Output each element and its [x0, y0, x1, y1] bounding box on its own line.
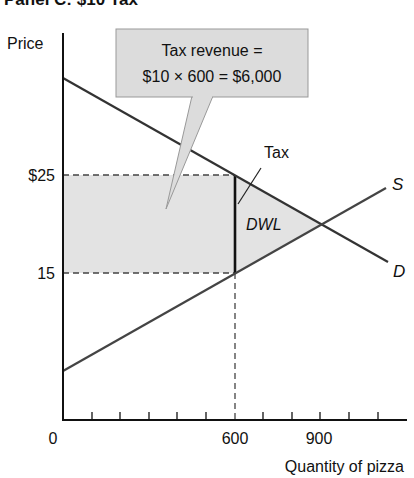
x-axis-label: Quantity of pizza	[285, 458, 404, 475]
tax-label: Tax	[264, 144, 289, 161]
tax-chart: Panel C: $10 Tax Price $25 15 0 600 900 …	[0, 0, 414, 478]
x-tick-900: 900	[306, 430, 333, 447]
supply-label: S	[392, 175, 404, 194]
callout-line-1: Tax revenue =	[162, 42, 263, 59]
y-tick-25: $25	[28, 167, 55, 184]
x-tick-0: 0	[49, 430, 58, 447]
y-axis-label: Price	[7, 35, 44, 52]
callout-box	[116, 29, 308, 97]
demand-label: D	[393, 262, 405, 281]
chart-title: Panel C: $10 Tax	[4, 0, 138, 9]
x-tick-600: 600	[222, 430, 249, 447]
y-tick-15: 15	[37, 265, 55, 282]
callout-line-2: $10 × 600 = $6,000	[143, 68, 282, 85]
dwl-label: DWL	[246, 216, 282, 233]
tax-revenue-area	[63, 175, 235, 273]
